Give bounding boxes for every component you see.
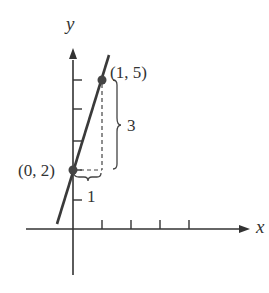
rise-label: 3 [127, 116, 136, 135]
x-axis-label: x [255, 216, 265, 237]
coordinate-plot: y x (1, 5) (0, 2) 3 1 [0, 0, 269, 293]
point-1-5 [98, 76, 107, 85]
x-ticks [102, 220, 189, 229]
y-axis-label: y [64, 13, 75, 34]
axes [26, 60, 245, 275]
x-axis-arrow-icon [239, 225, 250, 233]
rise-brace [113, 80, 121, 169]
y-ticks [73, 80, 82, 200]
point-b-label: (1, 5) [110, 63, 147, 82]
y-axis-arrow-icon [69, 48, 77, 59]
point-0-2 [69, 166, 78, 175]
point-a-label: (0, 2) [18, 161, 55, 180]
run-label: 1 [87, 187, 96, 206]
run-brace [74, 173, 101, 181]
